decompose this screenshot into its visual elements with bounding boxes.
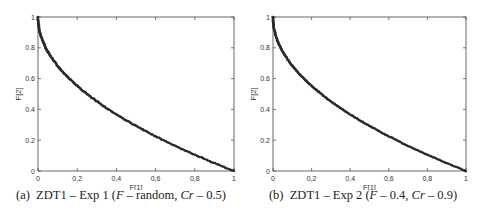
x-tick-label: 0,2: [307, 175, 317, 182]
y-tick-label: 0.8: [260, 44, 270, 51]
caption-text: ZDT1 – Exp 2 (: [290, 188, 370, 202]
y-tick-label: 0.6: [25, 75, 35, 82]
x-tick-label: 0: [271, 175, 275, 182]
x-tick-label: 1: [464, 175, 468, 182]
x-tick-label: 0,8: [423, 175, 433, 182]
caption-cr-value: – 0.9): [425, 188, 457, 202]
chart-plot-b: 000,20.20,40.40,60.60,80.811F[1]F[2]: [242, 0, 484, 190]
axes-frame: [38, 17, 234, 171]
x-tick-label: 0,4: [112, 175, 122, 182]
caption-label: (a): [16, 188, 30, 202]
caption-text: ZDT1 – Exp 1 (: [36, 188, 116, 202]
x-tick-label: 0,6: [151, 175, 161, 182]
y-tick-label: 1: [31, 14, 35, 21]
y-axis-label: F[2]: [249, 88, 258, 101]
axes-frame: [273, 17, 466, 171]
x-tick-label: 0,4: [345, 175, 355, 182]
x-tick-label: 0: [36, 175, 40, 182]
y-tick-label: 0.2: [260, 137, 270, 144]
y-tick-label: 1: [266, 14, 270, 21]
caption-a: (a) ZDT1 – Exp 1 (F – random, Cr – 0.5): [0, 188, 242, 203]
y-tick-label: 0.2: [25, 137, 35, 144]
caption-label: (b): [269, 188, 284, 202]
chart-panel-b: 000,20.20,40.40,60.60,80.811F[1]F[2] (b)…: [242, 0, 484, 221]
y-tick-label: 0.4: [260, 106, 270, 113]
caption-f: F: [116, 188, 124, 202]
chart-plot-a: 000,20.20,40.40,60.60,80.811F[1]F[2]: [0, 0, 242, 190]
y-tick-label: 0: [31, 168, 35, 175]
x-tick-label: 0,6: [384, 175, 394, 182]
x-tick-label: 1: [232, 175, 236, 182]
caption-cr: Cr: [181, 188, 194, 202]
caption-f-value: – random,: [124, 188, 181, 202]
pareto-front-points: [271, 16, 467, 173]
caption-b: (b) ZDT1 – Exp 2 (F – 0.4, Cr – 0.9): [242, 188, 484, 203]
x-tick-label: 0,2: [72, 175, 82, 182]
caption-cr: Cr: [412, 188, 425, 202]
y-tick-label: 0: [266, 168, 270, 175]
y-tick-label: 0.8: [25, 44, 35, 51]
y-tick-label: 0.4: [25, 106, 35, 113]
caption-cr-value: – 0.5): [194, 188, 226, 202]
chart-panel-a: 000,20.20,40.40,60.60,80.811F[1]F[2] (a)…: [0, 0, 242, 221]
caption-f-value: – 0.4,: [377, 188, 411, 202]
x-tick-label: 0,8: [190, 175, 200, 182]
y-axis-label: F[2]: [14, 88, 23, 101]
y-tick-label: 0.6: [260, 75, 270, 82]
pareto-front-points: [36, 16, 235, 172]
